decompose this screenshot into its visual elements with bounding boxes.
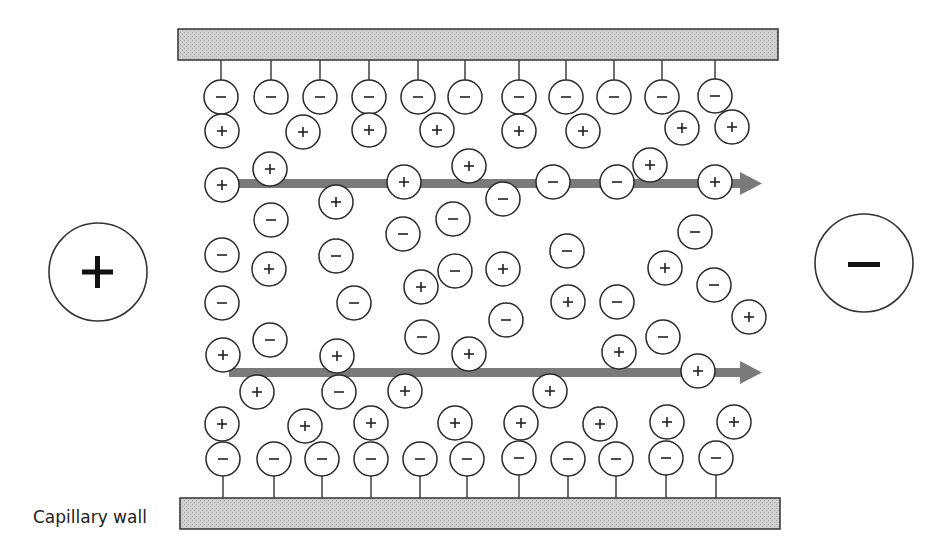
anion	[436, 202, 470, 236]
cation	[420, 113, 454, 147]
wall-bound-anion-bottom	[649, 441, 683, 475]
wall-bound-anion-bottom	[403, 442, 437, 476]
anion	[600, 285, 634, 319]
cation	[502, 114, 536, 148]
cation	[583, 407, 617, 441]
wall-bound-anion-top	[448, 80, 482, 114]
wall-tethers-bottom	[223, 475, 716, 498]
cation	[319, 185, 353, 219]
wall-bound-anion-bottom	[599, 442, 633, 476]
cation	[551, 285, 585, 319]
cation	[533, 374, 567, 408]
anion	[438, 254, 472, 288]
cation	[504, 406, 538, 440]
cation	[648, 251, 682, 285]
capillary-wall-bottom	[180, 498, 780, 529]
cation	[602, 335, 636, 369]
cation	[252, 252, 286, 286]
wall-bound-anion-top	[549, 80, 583, 114]
wall-bound-anion-top	[254, 80, 288, 114]
anion	[600, 165, 634, 199]
cation	[354, 406, 388, 440]
wall-bound-anion-bottom	[551, 442, 585, 476]
anion	[319, 239, 353, 273]
wall-bound-anion-bottom	[206, 442, 240, 476]
cation	[486, 252, 520, 286]
wall-bound-anion-bottom	[305, 442, 339, 476]
anion	[205, 286, 239, 320]
anion	[536, 165, 570, 199]
cation	[633, 148, 667, 182]
cation	[404, 270, 438, 304]
anion	[550, 234, 584, 268]
cation	[286, 115, 320, 149]
wall-bound-anion-top	[502, 80, 536, 114]
anion	[405, 320, 439, 354]
cathode-electrode	[815, 214, 913, 312]
cation	[681, 354, 715, 388]
cation	[205, 168, 239, 202]
wall-bound-anion-bottom	[354, 442, 388, 476]
wall-bound-anion-top	[597, 80, 631, 114]
anion	[322, 375, 356, 409]
cation	[717, 405, 751, 439]
wall-bound-anion-top	[352, 80, 386, 114]
cation	[205, 114, 239, 148]
wall-bound-anion-top	[698, 79, 732, 113]
cation	[438, 406, 472, 440]
anion	[646, 320, 680, 354]
capillary-wall-top	[178, 29, 778, 60]
anion	[486, 182, 520, 216]
anion	[678, 215, 712, 249]
anion	[697, 268, 731, 302]
cation	[388, 374, 422, 408]
cation	[715, 110, 749, 144]
wall-bound-anion-top	[303, 80, 337, 114]
anion	[253, 323, 287, 357]
anode-electrode	[49, 223, 147, 321]
electroosmosis-diagram	[0, 0, 951, 558]
cation	[732, 300, 766, 334]
capillary-wall-label: Capillary wall	[33, 507, 147, 527]
cation	[650, 405, 684, 439]
wall-bound-anion-bottom	[502, 441, 536, 475]
anion	[386, 217, 420, 251]
cation	[452, 337, 486, 371]
anion	[205, 238, 239, 272]
anion	[489, 303, 523, 337]
cation	[240, 375, 274, 409]
cation	[566, 114, 600, 148]
cation	[288, 409, 322, 443]
ions-layer	[204, 79, 766, 476]
anion	[337, 286, 371, 320]
cation	[253, 152, 287, 186]
anion	[254, 203, 288, 237]
cation	[387, 165, 421, 199]
wall-bound-anion-top	[401, 80, 435, 114]
wall-tethers-top	[221, 60, 715, 80]
cation	[698, 165, 732, 199]
wall-bound-anion-bottom	[699, 441, 733, 475]
cation	[352, 113, 386, 147]
wall-bound-anion-bottom	[257, 442, 291, 476]
wall-bound-anion-top	[645, 80, 679, 114]
cation	[206, 338, 240, 372]
minus-icon	[848, 262, 880, 267]
cation	[205, 407, 239, 441]
cation	[665, 111, 699, 145]
wall-bound-anion-bottom	[450, 442, 484, 476]
cation	[320, 339, 354, 373]
cation	[452, 149, 486, 183]
wall-bound-anion-top	[204, 80, 238, 114]
